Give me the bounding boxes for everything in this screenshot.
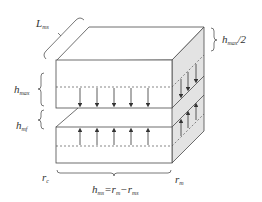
length-label: Lms <box>36 18 49 30</box>
half-height-brace <box>211 28 217 51</box>
top-gap-label: hmax <box>14 84 30 96</box>
thickness-label: hms=rm−rms <box>92 184 139 196</box>
inner-radius-label: rc <box>42 172 49 184</box>
magnet-stack-diagram: Lms hmax hmf hmax/2 rc rm hms=rm−rms <box>0 0 262 202</box>
half-height-label: hmax/2 <box>222 34 246 46</box>
mid-gap-label: hmf <box>16 120 28 132</box>
thickness-brace <box>57 170 171 176</box>
mid-gap-brace <box>38 110 44 129</box>
top-gap-brace <box>38 73 44 106</box>
diagram-canvas <box>0 0 262 202</box>
outer-radius-label: rm <box>175 174 184 186</box>
